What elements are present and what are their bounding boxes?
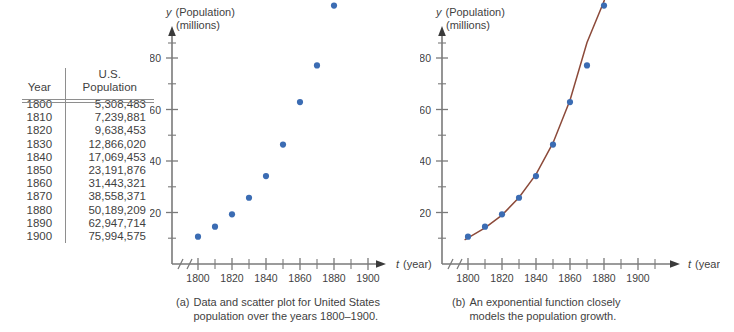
table-row: 187038,558,371 [14,190,154,203]
table-header-population-line1: U.S. [72,68,148,81]
caption-b-tag: (b) [452,296,465,323]
table-row: 188050,189,209 [14,204,154,217]
data-point [263,173,269,179]
table-header-rule [22,99,154,102]
y-axis: 20 40 60 80 [420,26,448,264]
table-row: 18005,308,483 [14,94,154,111]
data-point [246,195,252,201]
x-tick-label-1820: 1820 [220,272,244,284]
y-axis-label-line2: (millions) [176,19,220,31]
table-row: 190075,994,575 [14,230,154,243]
x-tick-label-1800: 1800 [456,272,480,284]
chart-scatter-plot: 20 40 60 80 y(Population) (millions) [150,0,450,300]
cell-population: 75,994,575 [65,230,154,243]
cell-population: 17,069,453 [65,151,154,164]
x-axis-label: t(year) [688,258,720,270]
cell-population: 5,308,483 [65,94,154,111]
chart-b-svg: 20 40 60 80 y(Population) (millions) [420,0,720,300]
y-axis-label-variable: y [435,6,443,18]
table-body: 18005,308,48318107,239,88118209,638,4531… [14,94,154,243]
caption-a-line2: population over the years 1800–1900. [193,310,378,322]
caption-a-tag: (a) [176,296,189,323]
y-axis-label-text: (Population) [176,6,235,18]
table-row: 186031,443,321 [14,177,154,190]
table-header-year: Year [14,68,65,94]
chart-a-svg: 20 40 60 80 y(Population) (millions) [150,0,450,300]
caption-b-line1: An exponential function closely [469,296,620,308]
cell-year: 1870 [14,190,65,203]
x-tick-label-1820: 1820 [490,272,514,284]
cell-year: 1820 [14,124,65,137]
exponential-fit-curve [465,0,645,240]
x-axis: 1800 1820 1840 1860 1880 1900 t(year) [442,258,720,284]
y-tick-label-60: 60 [420,104,431,116]
cell-population: 50,189,209 [65,204,154,217]
table-row: 184017,069,453 [14,151,154,164]
data-point [601,2,607,8]
x-tick-label-1900: 1900 [626,272,650,284]
caption-b-line2: models the population growth. [469,310,616,322]
x-tick-label-1840: 1840 [524,272,548,284]
cell-year: 1830 [14,138,65,151]
population-data-table: Year U.S. Population 18005,308,48318107,… [14,68,154,243]
caption-b: (b) An exponential function closely mode… [452,296,704,323]
cell-year: 1850 [14,164,65,177]
data-point [229,211,235,217]
y-axis-label-variable: y [165,6,173,18]
data-point [533,173,539,179]
cell-year: 1880 [14,204,65,217]
cell-year: 1890 [14,217,65,230]
x-axis-label-variable: t [688,258,692,270]
chart-exponential-fit: 20 40 60 80 y(Population) (millions) [420,0,720,300]
y-axis: 20 40 60 80 [150,26,178,264]
data-point [499,211,505,217]
x-tick-label-1800: 1800 [186,272,210,284]
data-point [550,141,556,147]
x-tick-label-1900: 1900 [356,272,380,284]
cell-year: 1800 [14,94,65,111]
data-point [567,99,573,105]
y-tick-label-80: 80 [420,52,431,64]
table-header-population-line2: Population [72,81,148,94]
caption-a-line1: Data and scatter plot for United States [193,296,380,308]
cell-population: 38,558,371 [65,190,154,203]
table-row: 185023,191,876 [14,164,154,177]
cell-year: 1860 [14,177,65,190]
x-axis-label-text: (year) [695,258,720,270]
data-points-b [465,0,641,240]
y-axis-label-line1: y(Population) [165,6,235,18]
data-point [584,62,590,68]
y-tick-label-20: 20 [150,207,161,219]
cell-population: 31,443,321 [65,177,154,190]
y-tick-label-60: 60 [150,104,161,116]
data-point [331,2,337,8]
x-tick-label-1880: 1880 [592,272,616,284]
y-tick-label-40: 40 [150,155,161,167]
x-tick-label-1880: 1880 [322,272,346,284]
data-point [314,62,320,68]
table-row: 18209,638,453 [14,124,154,137]
y-tick-label-40: 40 [420,155,431,167]
data-point [482,224,488,230]
x-tick-label-1840: 1840 [254,272,278,284]
data-point [465,234,471,240]
y-tick-label-80: 80 [150,52,161,64]
y-axis-label-line1: y(Population) [435,6,505,18]
cell-year: 1840 [14,151,65,164]
table-row: 18107,239,881 [14,111,154,124]
y-axis-label-line2: (millions) [446,19,490,31]
y-tick-label-20: 20 [420,207,431,219]
table-header-population: U.S. Population [65,68,154,94]
cell-year: 1900 [14,230,65,243]
cell-population: 12,866,020 [65,138,154,151]
data-point [297,99,303,105]
data-point [212,224,218,230]
x-tick-label-1860: 1860 [288,272,312,284]
figure-root: Year U.S. Population 18005,308,48318107,… [0,0,734,332]
x-tick-label-1860: 1860 [558,272,582,284]
data-point [195,234,201,240]
cell-population: 9,638,453 [65,124,154,137]
y-axis-label-text: (Population) [446,6,505,18]
x-axis: 1800 1820 1840 1860 1880 1900 t(year) [172,258,432,284]
table-row: 183012,866,020 [14,138,154,151]
